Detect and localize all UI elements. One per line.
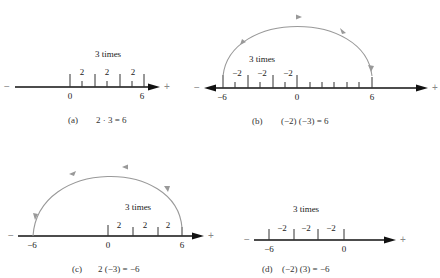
axis-label-0: 0 <box>68 91 73 101</box>
axis-arrow-right-icon <box>148 84 160 91</box>
step-label: −2 <box>301 223 311 233</box>
arc-arrow-icon <box>340 28 346 34</box>
plus-sign: + <box>164 81 170 92</box>
step-label: 2 <box>143 220 148 230</box>
step-label: 2 <box>131 67 136 77</box>
minus-sign: − <box>8 230 14 241</box>
caption-label: (a) <box>68 115 78 125</box>
step-label: 2 <box>105 67 110 77</box>
arc-arrow-icon <box>122 165 128 170</box>
arc-arrow-icon <box>368 65 374 72</box>
step-label: −2 <box>232 68 242 78</box>
caption-equation: (−2) (−3) = 6 <box>281 116 329 126</box>
axis-arrow-left-icon <box>204 85 216 92</box>
step-label: 2 <box>117 220 122 230</box>
repeat-label: 3 times <box>293 204 320 214</box>
number-line-figure: − + 2 2 2 3 times 0 6 (a) 2 · 3 = 6 − + <box>0 0 440 278</box>
step-label: −2 <box>326 223 336 233</box>
axis-label-neg6: −6 <box>27 240 37 250</box>
reflection-arc <box>223 27 372 77</box>
panel-d: − + −2 −2 −2 3 times −6 0 (d) (−2) (3) =… <box>244 204 406 274</box>
arc-arrow-icon <box>164 186 170 192</box>
axis-label-0: 0 <box>106 240 111 250</box>
caption-label: (b) <box>252 116 263 126</box>
plus-sign: + <box>432 82 438 93</box>
minus-sign: − <box>244 234 250 245</box>
axis-label-neg6: −6 <box>217 92 227 102</box>
repeat-label: 3 times <box>95 49 122 59</box>
repeat-label: 3 times <box>125 202 152 212</box>
caption-label: (d) <box>262 264 273 274</box>
plus-sign: + <box>400 234 406 245</box>
caption-equation: 2 · 3 = 6 <box>96 115 127 125</box>
axis-label-6: 6 <box>140 91 145 101</box>
axis-label-neg6: −6 <box>264 244 274 254</box>
step-label: 2 <box>80 67 85 77</box>
plus-sign: + <box>208 230 214 241</box>
arc-arrow-icon <box>296 15 302 20</box>
caption-label: (c) <box>72 264 82 274</box>
step-label: −2 <box>257 68 267 78</box>
axis-arrow-right-icon <box>384 237 396 244</box>
step-label: 2 <box>166 220 171 230</box>
axis-label-6: 6 <box>180 240 185 250</box>
axis-arrow-right-icon <box>192 233 204 240</box>
panel-b: − + −2 −2 −2 3 times −6 0 6 (b) (−2) (−3 <box>194 15 438 127</box>
axis-arrow-right-icon <box>416 85 428 92</box>
axis-label-0: 0 <box>342 244 347 254</box>
step-label: −2 <box>283 68 293 78</box>
axis-label-0: 0 <box>295 92 300 102</box>
axis-label-6: 6 <box>370 92 375 102</box>
caption-equation: 2 (−3) = −6 <box>98 264 140 274</box>
panel-a: − + 2 2 2 3 times 0 6 (a) 2 · 3 = 6 <box>4 49 170 125</box>
arc-arrow-icon <box>69 171 76 176</box>
minus-sign: − <box>4 81 10 92</box>
minus-sign: − <box>194 82 200 93</box>
repeat-label: 3 times <box>249 54 276 64</box>
panel-c: − + 2 2 2 3 times −6 0 6 (c) 2 (−3) = −6 <box>8 165 214 275</box>
arc-arrow-icon <box>240 39 246 45</box>
caption-equation: (−2) (3) = −6 <box>282 264 330 274</box>
step-label: −2 <box>277 223 287 233</box>
